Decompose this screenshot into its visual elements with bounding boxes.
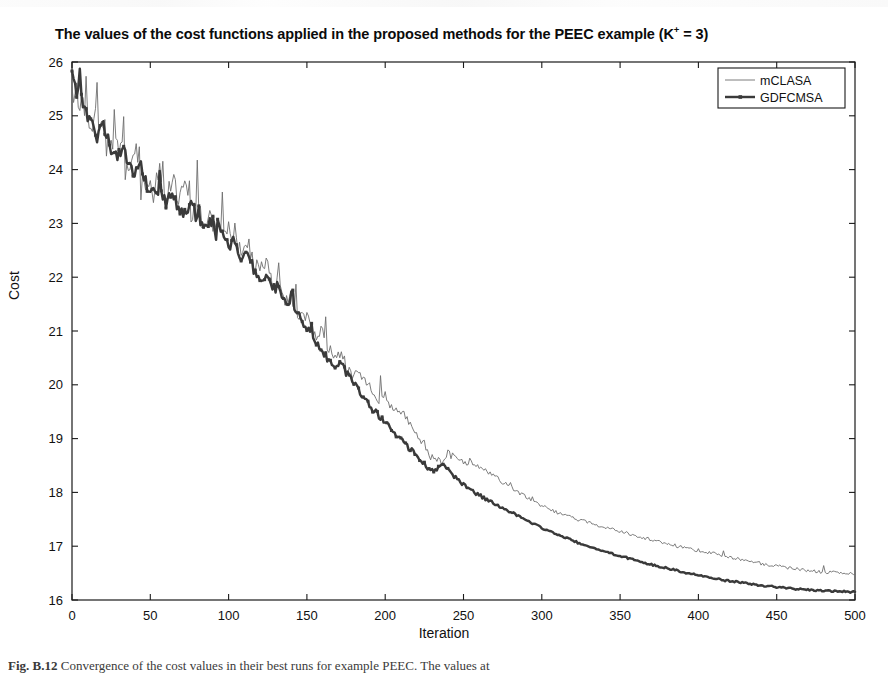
figure-container: The values of the cost functions applied… [0, 0, 888, 675]
y-tick-label: 23 [49, 216, 63, 231]
x-tick-label: 150 [296, 608, 318, 623]
y-tick-label: 16 [49, 593, 63, 608]
y-tick-label: 20 [49, 377, 63, 392]
x-tick-label: 300 [531, 608, 553, 623]
series-line-mclasa [72, 76, 855, 574]
plot-frame [72, 62, 855, 600]
x-tick-label: 200 [374, 608, 396, 623]
x-tick-label: 400 [688, 608, 710, 623]
x-tick-label: 450 [766, 608, 788, 623]
y-tick-label: 19 [49, 431, 63, 446]
y-tick-label: 25 [49, 108, 63, 123]
x-tick-label: 250 [453, 608, 475, 623]
y-tick-label: 26 [49, 55, 63, 70]
y-tick-label: 24 [49, 162, 63, 177]
y-tick-label: 21 [49, 324, 63, 339]
chart-legend: mCLASAGDFCMSA [718, 68, 845, 108]
legend-label-mclasa: mCLASA [760, 74, 812, 88]
y-tick-label: 17 [49, 539, 63, 554]
axis-ticks: 0501001502002503003504004505001617181920… [49, 55, 866, 624]
x-tick-label: 350 [609, 608, 631, 623]
x-tick-label: 100 [218, 608, 240, 623]
x-tick-label: 500 [844, 608, 866, 623]
figure-caption-label: Fig. B.12 [8, 658, 57, 673]
y-tick-label: 22 [49, 270, 63, 285]
x-axis-title: Iteration [0, 625, 888, 641]
legend-label-gdfcmsa: GDFCMSA [760, 91, 823, 105]
y-axis-title: Cost [6, 271, 22, 300]
data-series [71, 69, 856, 593]
x-tick-label: 0 [68, 608, 75, 623]
cost-convergence-chart: 0501001502002503003504004505001617181920… [0, 0, 888, 675]
figure-caption: Fig. B.12 Convergence of the cost values… [8, 658, 882, 674]
series-line-gdfcmsa [72, 69, 855, 593]
y-tick-label: 18 [49, 485, 63, 500]
x-tick-label: 50 [143, 608, 157, 623]
figure-caption-text: Convergence of the cost values in their … [57, 658, 489, 673]
series-markers-gdfcmsa [71, 70, 450, 474]
